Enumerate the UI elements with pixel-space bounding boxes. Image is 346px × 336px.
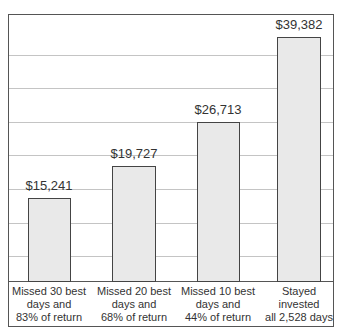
category-label: Missed 30 best days and 83% of return: [7, 285, 91, 324]
bar-missed-20: [112, 166, 156, 282]
category-label: Missed 20 best days and 68% of return: [92, 285, 176, 324]
value-label: $19,727: [94, 147, 174, 161]
value-label: $15,241: [9, 179, 89, 193]
value-label: $39,382: [259, 18, 339, 32]
category-label: Stayed invested all 2,528 days: [257, 285, 341, 324]
bar-stayed-invested: [277, 37, 321, 282]
bar-missed-30: [28, 198, 71, 282]
category-label: Missed 10 best days and 44% of return: [176, 285, 260, 324]
value-label: $26,713: [178, 103, 258, 117]
bar-missed-10: [197, 122, 240, 282]
